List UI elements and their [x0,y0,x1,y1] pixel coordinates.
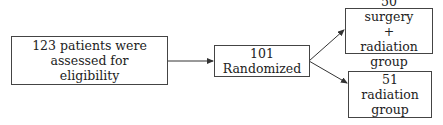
node-surgery-radiation: 50 surgery + radiation group [345,8,433,54]
node-assessed: 123 patients were assessed for eligibili… [11,36,168,85]
node-assessed-label: 123 patients were assessed for eligibili… [22,38,157,83]
arrow-randomized-to-surgery-radiation [309,30,344,61]
node-radiation-label: 51 radiation group [361,72,418,117]
node-randomized: 101 Randomized [214,45,310,77]
node-radiation: 51 radiation group [348,71,432,118]
arrow-randomized-to-radiation [309,61,347,83]
node-surgery-radiation-label: 50 surgery + radiation group [358,0,420,69]
node-randomized-label: 101 Randomized [215,46,309,76]
